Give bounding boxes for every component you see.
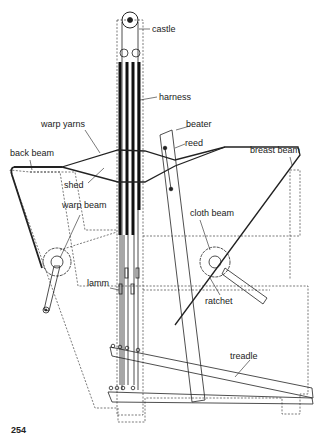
warp-beam-ratchet xyxy=(43,248,71,313)
label-shed: shed xyxy=(64,181,84,190)
label-ratchet: ratchet xyxy=(205,297,233,306)
lamm-block xyxy=(119,284,122,294)
label-treadle: treadle xyxy=(230,352,258,361)
label-back-beam: back beam xyxy=(10,149,54,158)
label-reed: reed xyxy=(185,139,203,148)
label-lamm: lamm xyxy=(87,279,109,288)
label-harness: harness xyxy=(159,93,191,102)
label-cloth-beam: cloth beam xyxy=(190,209,234,218)
page-number: 254 xyxy=(11,425,26,435)
warp-to-beam xyxy=(11,167,42,268)
label-warp-yarns: warp yarns xyxy=(41,120,85,129)
label-castle: castle xyxy=(152,25,176,34)
label-breast-beam: breast beam xyxy=(250,146,300,155)
treadle-bar xyxy=(110,347,313,398)
warp-yarn-bottom xyxy=(62,147,225,182)
loom-drawing xyxy=(0,0,318,441)
label-warp-beam: warp beam xyxy=(62,201,107,210)
loom-diagram: castle harness warp yarns beater reed ba… xyxy=(0,0,318,441)
frame-outline xyxy=(10,170,308,422)
label-beater: beater xyxy=(186,120,212,129)
